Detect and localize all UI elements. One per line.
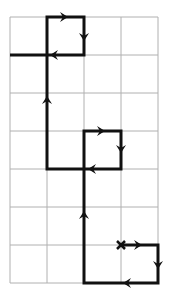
grid-path-diagram (0, 0, 169, 299)
arrows (42, 12, 163, 288)
